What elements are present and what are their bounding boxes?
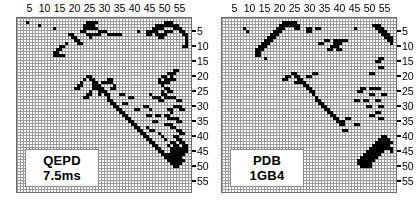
x-axis-labels-qepd: 510152025303540455055	[0, 1, 210, 16]
contact-cell	[330, 48, 333, 51]
contact-cell	[185, 150, 188, 153]
contact-cell	[378, 87, 381, 90]
contact-cell	[158, 27, 161, 30]
contact-cell	[62, 45, 65, 48]
contact-cell	[381, 150, 384, 153]
contact-cell	[92, 24, 95, 27]
contact-cell	[59, 48, 62, 51]
contact-cell	[285, 78, 288, 81]
contact-cell	[342, 120, 345, 123]
contact-cell	[267, 36, 270, 39]
contact-cell	[185, 45, 188, 48]
contact-cell	[327, 39, 330, 42]
contact-cell	[345, 39, 348, 42]
panel-pdb: 510152025303540455055 510152025303540455…	[210, 0, 420, 219]
contact-cell	[261, 42, 264, 45]
contact-cell	[149, 93, 152, 96]
contact-cell	[152, 129, 155, 132]
contact-cell	[179, 162, 182, 165]
contact-cell	[297, 81, 300, 84]
contact-cell	[77, 87, 80, 90]
contact-cell	[161, 135, 164, 138]
contact-cell	[342, 123, 345, 126]
y-tick-mark	[397, 135, 401, 137]
contact-cell	[173, 72, 176, 75]
x-tick-label: 55	[170, 1, 190, 15]
contact-cell	[258, 54, 261, 57]
y-tick-label: 55	[397, 176, 414, 186]
contact-cell	[375, 156, 378, 159]
y-tick-mark	[397, 150, 401, 152]
y-tick-mark	[397, 60, 401, 62]
panel-label-qepd-line2: 7.5ms	[43, 168, 81, 183]
contact-cell	[182, 147, 185, 150]
contact-cell	[390, 141, 393, 144]
contact-cell	[339, 42, 342, 45]
y-tick-label: 40	[397, 131, 414, 141]
contact-cell	[282, 21, 285, 24]
y-tick-label: 35	[397, 116, 414, 126]
y-tick-mark	[192, 105, 196, 107]
contact-cell	[357, 123, 360, 126]
contact-cell	[264, 57, 267, 60]
contact-cell	[137, 108, 140, 111]
contact-cell	[309, 30, 312, 33]
contact-cell	[65, 42, 68, 45]
contact-cell	[179, 120, 182, 123]
contact-cell	[381, 105, 384, 108]
y-tick-label: 40	[192, 131, 209, 141]
contact-cell	[83, 96, 86, 99]
contact-cell	[62, 54, 65, 57]
contact-cell	[80, 42, 83, 45]
y-tick-mark	[397, 75, 401, 77]
y-tick-label: 45	[192, 146, 209, 156]
y-tick-label: 30	[192, 101, 209, 111]
x-axis-labels-pdb: 510152025303540455055	[210, 1, 420, 16]
contact-cell	[339, 48, 342, 51]
y-tick-label: 20	[397, 71, 414, 81]
y-tick-mark	[192, 150, 196, 152]
contact-cell	[113, 87, 116, 90]
contact-cell	[261, 48, 264, 51]
contact-cell	[53, 27, 56, 30]
contact-cell	[369, 105, 372, 108]
contact-cell	[98, 33, 101, 36]
contact-cell	[146, 126, 149, 129]
y-tick-mark	[397, 45, 401, 47]
y-tick-label: 10	[397, 41, 414, 51]
y-tick-label: 20	[192, 71, 209, 81]
panel-label-qepd: QEPD 7.5ms	[25, 149, 99, 187]
y-tick-mark	[397, 180, 401, 182]
y-tick-label: 50	[397, 161, 414, 171]
panel-label-pdb-line2: 1GB4	[250, 168, 285, 183]
contact-cell	[279, 24, 282, 27]
contact-cell	[363, 165, 366, 168]
contact-cell	[137, 30, 140, 33]
contact-cell	[282, 78, 285, 81]
y-tick-label: 35	[192, 116, 209, 126]
contact-cell	[258, 45, 261, 48]
contact-cell	[164, 138, 167, 141]
y-tick-mark	[397, 30, 401, 32]
contact-cell	[182, 132, 185, 135]
contact-cell	[294, 27, 297, 30]
contact-cell	[89, 36, 92, 39]
contact-cell	[164, 33, 167, 36]
contact-cell	[110, 78, 113, 81]
contact-cell	[255, 48, 258, 51]
contact-cell	[74, 87, 77, 90]
panel-label-pdb-line1: PDB	[253, 153, 281, 168]
contact-cell	[149, 33, 152, 36]
contact-cell	[86, 96, 89, 99]
contact-cell	[315, 72, 318, 75]
contact-cell	[306, 30, 309, 33]
contact-cell	[122, 93, 125, 96]
panel-label-qepd-line1: QEPD	[43, 153, 81, 168]
contact-cell	[345, 129, 348, 132]
contact-cell	[170, 90, 173, 93]
panel-label-pdb: PDB 1GB4	[230, 149, 304, 187]
y-tick-mark	[192, 60, 196, 62]
contact-cell	[98, 93, 101, 96]
contact-cell	[282, 27, 285, 30]
contact-cell	[179, 99, 182, 102]
